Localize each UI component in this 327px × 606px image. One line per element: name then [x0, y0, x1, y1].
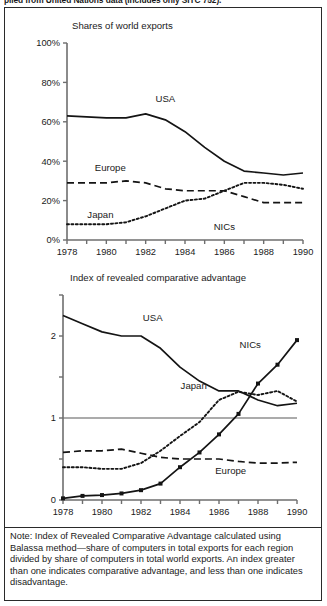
series-label-usa: USA [143, 312, 163, 323]
chart-2-x-tick-label: 1980 [92, 507, 113, 517]
chart-1-x-tick-label: 1988 [253, 247, 274, 257]
series-marker-nics [276, 363, 280, 367]
chart-2-x-tick-label: 1990 [287, 507, 308, 517]
chart-2-x-tick-label: 1982 [131, 507, 152, 517]
series-line-japan [63, 391, 297, 469]
note-divider [5, 527, 321, 528]
chart-1-y-tick-label: 40% [41, 157, 60, 167]
series-marker-nics [139, 488, 143, 492]
chart-2-group: 0121978198019821984198619881990USAJapanE… [51, 295, 308, 517]
series-marker-nics [217, 432, 221, 436]
series-line-europe [63, 449, 297, 463]
series-marker-nics [81, 494, 85, 498]
series-label-europe: Europe [95, 162, 126, 173]
series-marker-nics [100, 493, 104, 497]
chart-1-x-tick-label: 1984 [175, 247, 196, 257]
chart-2-x-tick-label: 1984 [170, 507, 191, 517]
chart-1-y-tick-label: 20% [41, 196, 60, 206]
chart-1-y-tick-label: 80% [41, 78, 60, 88]
series-label-japan: Japan [87, 209, 113, 220]
chart-1-x-tick-label: 1978 [57, 247, 78, 257]
series-label-japan: Japan [181, 380, 207, 391]
chart-1-x-tick-label: 1980 [96, 247, 117, 257]
chart-2-x-tick-label: 1986 [209, 507, 230, 517]
series-label-usa: USA [155, 93, 175, 104]
figure-page: piled from United Nations data (includes… [0, 0, 327, 606]
chart-2-x-tick-label: 1978 [53, 507, 74, 517]
chart-1-y-tick-label: 0% [47, 235, 60, 245]
series-line-nics [63, 340, 297, 498]
series-line-usa [63, 316, 297, 406]
figure-note: Note: Index of Revealed Comparative Adva… [10, 531, 310, 589]
chart-1-x-tick-label: 1982 [135, 247, 156, 257]
chart-1-y-tick-label: 100% [36, 38, 60, 48]
chart-2-y-tick-label: 0 [51, 495, 56, 505]
series-marker-nics [159, 482, 163, 486]
chart-1-y-tick-label: 60% [41, 117, 60, 127]
chart-1-group: 0%20%40%60%80%100%1978198019821984198619… [36, 38, 313, 257]
series-label-nics: NICs [214, 221, 236, 232]
series-marker-nics [198, 450, 202, 454]
chart-1-x-tick-label: 1990 [293, 247, 314, 257]
chart-2-y-tick-label: 2 [51, 331, 56, 341]
chart-2-y-tick-label: 1 [51, 413, 56, 423]
series-label-nics: NICs [240, 339, 262, 350]
chart-2-x-tick-label: 1988 [248, 507, 269, 517]
series-marker-nics [61, 496, 65, 500]
charts-canvas: 0%20%40%60%80%100%1978198019821984198619… [0, 0, 327, 606]
series-marker-nics [256, 382, 260, 386]
series-label-europe: Europe [215, 465, 246, 476]
series-marker-nics [237, 412, 241, 416]
series-marker-nics [120, 491, 124, 495]
chart-1-x-tick-label: 1986 [214, 247, 235, 257]
series-marker-nics [178, 465, 182, 469]
series-marker-nics [295, 338, 299, 342]
